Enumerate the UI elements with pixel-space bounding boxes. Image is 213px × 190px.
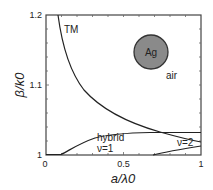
y-tick-1-1: 1.1 bbox=[29, 80, 42, 90]
x-tick-0-5: 0.5 bbox=[117, 159, 130, 169]
nu2-label: ν=2 bbox=[177, 137, 194, 148]
air-label: air bbox=[166, 70, 178, 81]
y-tick-1: 1 bbox=[37, 150, 42, 160]
hybrid-label: hybrid bbox=[97, 132, 124, 143]
x-tick-1: 1 bbox=[198, 159, 203, 169]
x-axis-title: a/λ0 bbox=[111, 171, 136, 186]
tm-label: TM bbox=[64, 24, 78, 35]
tm-curve bbox=[58, 15, 201, 142]
nu1-label: ν=1 bbox=[97, 143, 114, 154]
ag-label: Ag bbox=[145, 47, 157, 58]
chart-svg: Ag air TM hybrid ν=1 ν=2 1.2 1.1 1 0 0.5… bbox=[0, 0, 213, 190]
y-axis-title: β/k0 bbox=[12, 72, 27, 99]
x-tick-0: 0 bbox=[42, 159, 47, 169]
y-tick-1-2: 1.2 bbox=[29, 10, 42, 20]
